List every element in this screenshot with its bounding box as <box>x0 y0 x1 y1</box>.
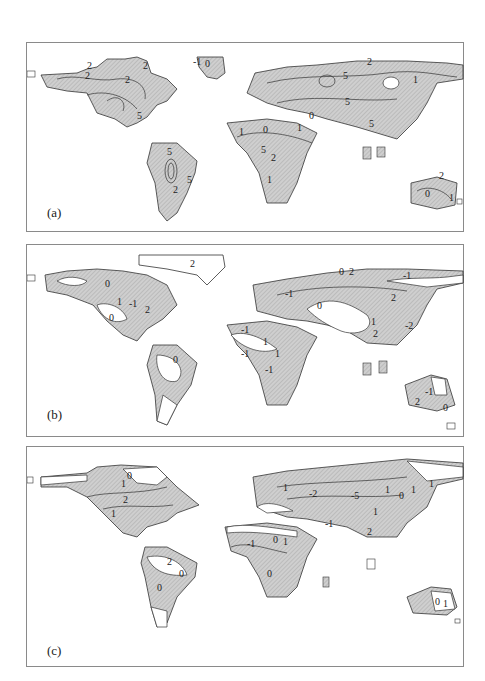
svg-text:-1: -1 <box>325 518 333 529</box>
svg-text:2: 2 <box>173 184 178 195</box>
svg-text:5: 5 <box>345 96 350 107</box>
svg-text:5: 5 <box>187 174 192 185</box>
svg-text:1: 1 <box>297 122 302 133</box>
map-panel-a: 2 2 2 2 5 -1 0 2 5 5 1 0 0 5 1 1 5 2 1 5… <box>26 42 464 232</box>
svg-text:2: 2 <box>349 266 354 277</box>
svg-text:0: 0 <box>179 568 184 579</box>
svg-text:-1: -1 <box>129 298 137 309</box>
svg-text:0: 0 <box>435 596 440 607</box>
svg-text:1: 1 <box>275 348 280 359</box>
svg-text:0: 0 <box>109 312 114 323</box>
svg-text:2: 2 <box>123 494 128 505</box>
svg-text:1: 1 <box>117 296 122 307</box>
svg-text:1: 1 <box>267 174 272 185</box>
map-panel-c: 0 1 2 1 1 -2 -5 1 0 1 1 1 -1 2 -1 0 1 0 … <box>26 446 464 667</box>
north-america-a <box>41 57 177 127</box>
svg-text:0: 0 <box>273 534 278 545</box>
svg-text:-2: -2 <box>405 320 413 331</box>
svg-text:0: 0 <box>105 278 110 289</box>
svg-text:0: 0 <box>339 266 344 277</box>
svg-text:-1: -1 <box>265 364 273 375</box>
svg-text:-1: -1 <box>193 56 201 67</box>
svg-text:1: 1 <box>429 478 434 489</box>
svg-text:-1: -1 <box>403 270 411 281</box>
svg-text:-1: -1 <box>425 386 433 397</box>
svg-text:1: 1 <box>111 508 116 519</box>
svg-text:2: 2 <box>391 292 396 303</box>
svg-text:2: 2 <box>367 526 372 537</box>
svg-text:5: 5 <box>369 118 374 129</box>
svg-text:2: 2 <box>145 304 150 315</box>
svg-text:2: 2 <box>415 396 420 407</box>
svg-text:1: 1 <box>411 484 416 495</box>
panel-label-a: (a) <box>47 205 61 221</box>
svg-text:0: 0 <box>127 470 132 481</box>
svg-text:0: 0 <box>443 402 448 413</box>
panel-label-c: (c) <box>47 643 61 659</box>
svg-text:-1: -1 <box>285 288 293 299</box>
svg-text:0: 0 <box>173 354 178 365</box>
svg-text:5: 5 <box>343 70 348 81</box>
svg-text:-5: -5 <box>351 490 359 501</box>
svg-text:2: 2 <box>373 328 378 339</box>
svg-text:-1: -1 <box>247 538 255 549</box>
svg-text:1: 1 <box>263 336 268 347</box>
svg-text:-1: -1 <box>241 348 249 359</box>
svg-text:0: 0 <box>157 582 162 593</box>
svg-text:1: 1 <box>283 536 288 547</box>
svg-text:2: 2 <box>143 60 148 71</box>
svg-text:1: 1 <box>283 482 288 493</box>
panel-label-b: (b) <box>47 407 62 423</box>
svg-text:2: 2 <box>439 170 444 181</box>
svg-text:2: 2 <box>125 74 130 85</box>
svg-text:1: 1 <box>413 74 418 85</box>
svg-text:1: 1 <box>449 192 454 203</box>
svg-text:0: 0 <box>317 300 322 311</box>
world-map-c: 0 1 2 1 1 -2 -5 1 0 1 1 1 -1 2 -1 0 1 0 … <box>27 447 465 668</box>
svg-text:5: 5 <box>137 110 142 121</box>
svg-text:5: 5 <box>167 146 172 157</box>
svg-text:-1: -1 <box>241 324 249 335</box>
svg-text:0: 0 <box>205 58 210 69</box>
svg-text:2: 2 <box>85 70 90 81</box>
svg-text:2: 2 <box>367 56 372 67</box>
svg-text:1: 1 <box>373 506 378 517</box>
svg-text:1: 1 <box>371 316 376 327</box>
svg-text:0: 0 <box>399 490 404 501</box>
svg-text:0: 0 <box>263 124 268 135</box>
svg-text:0: 0 <box>267 568 272 579</box>
svg-text:5: 5 <box>261 144 266 155</box>
svg-text:1: 1 <box>385 484 390 495</box>
map-panel-b: 0 1 -1 2 0 2 0 2 -1 -1 2 0 1 2 -2 -1 1 1… <box>26 244 464 437</box>
world-map-b: 0 1 -1 2 0 2 0 2 -1 -1 2 0 1 2 -2 -1 1 1… <box>27 245 465 438</box>
svg-text:1: 1 <box>121 478 126 489</box>
svg-text:1: 1 <box>239 126 244 137</box>
svg-text:2: 2 <box>271 152 276 163</box>
svg-text:2: 2 <box>167 556 172 567</box>
svg-text:0: 0 <box>309 110 314 121</box>
svg-text:1: 1 <box>443 598 448 609</box>
svg-text:0: 0 <box>425 188 430 199</box>
svg-text:2: 2 <box>190 258 195 269</box>
svg-text:-2: -2 <box>309 488 317 499</box>
world-map-a: 2 2 2 2 5 -1 0 2 5 5 1 0 0 5 1 1 5 2 1 5… <box>27 43 465 233</box>
